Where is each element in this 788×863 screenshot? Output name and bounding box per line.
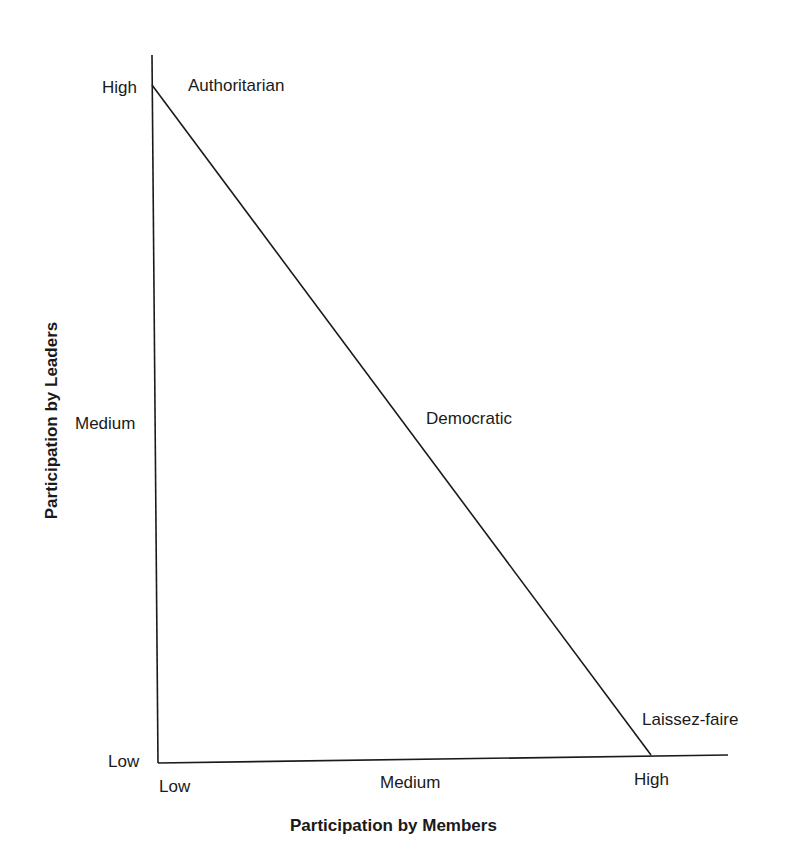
y-tick-medium: Medium [75, 415, 135, 432]
y-tick-low: Low [108, 753, 139, 770]
continuum-diagonal-line [152, 85, 651, 755]
x-tick-low: Low [159, 778, 190, 795]
label-laissez-faire: Laissez-faire [642, 711, 738, 728]
x-tick-high: High [634, 771, 669, 788]
label-democratic: Democratic [426, 410, 512, 427]
x-axis-line [158, 755, 728, 763]
y-axis-title: Participation by Leaders [43, 316, 60, 526]
x-axis-title: Participation by Members [290, 817, 497, 834]
y-axis-line [152, 55, 158, 763]
y-tick-high: High [102, 79, 137, 96]
x-tick-medium: Medium [380, 774, 440, 791]
label-authoritarian: Authoritarian [188, 77, 284, 94]
